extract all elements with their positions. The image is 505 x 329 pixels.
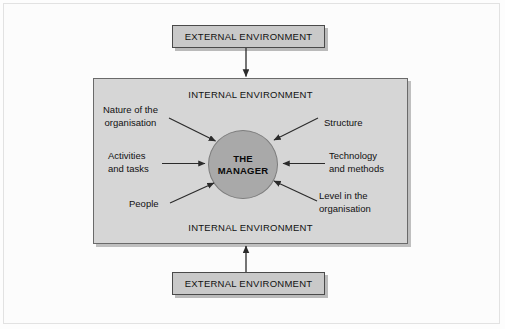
internal-environment-top-label: INTERNAL ENVIRONMENT <box>94 89 407 100</box>
factor-label-people[interactable]: People <box>129 198 159 211</box>
factor-structure-line1: Structure <box>324 117 363 128</box>
factor-activities-line1: Activities <box>108 150 145 161</box>
factor-label-structure[interactable]: Structure <box>324 117 363 130</box>
diagram-canvas: EXTERNAL ENVIRONMENT INTERNAL ENVIRONMEN… <box>0 0 505 329</box>
the-manager-circle[interactable]: THE MANAGER <box>208 130 278 199</box>
factor-level-line2: organisation <box>319 203 371 216</box>
external-environment-bottom-box[interactable]: EXTERNAL ENVIRONMENT <box>172 272 325 295</box>
factor-label-nature-of-the-organisation[interactable]: Nature of the organisation <box>103 104 158 129</box>
factor-nature-line2: organisation <box>103 117 158 130</box>
the-manager-line2: MANAGER <box>218 165 268 176</box>
the-manager-line1: THE <box>233 153 253 164</box>
external-environment-top-box[interactable]: EXTERNAL ENVIRONMENT <box>172 25 325 48</box>
factor-nature-line1: Nature of the <box>103 104 158 115</box>
factor-people-line1: People <box>129 198 159 209</box>
factor-label-activities-and-tasks[interactable]: Activities and tasks <box>108 150 149 175</box>
factor-technology-line2: and methods <box>329 163 384 176</box>
external-environment-top-label: EXTERNAL ENVIRONMENT <box>185 31 313 42</box>
factor-activities-line2: and tasks <box>108 163 149 176</box>
factor-label-level-in-the-organisation[interactable]: Level in the organisation <box>319 190 371 215</box>
external-environment-bottom-label: EXTERNAL ENVIRONMENT <box>185 278 313 289</box>
factor-level-line1: Level in the <box>319 190 368 201</box>
internal-environment-bottom-label: INTERNAL ENVIRONMENT <box>94 222 407 233</box>
factor-label-technology-and-methods[interactable]: Technology and methods <box>329 150 384 175</box>
factor-technology-line1: Technology <box>329 150 377 161</box>
